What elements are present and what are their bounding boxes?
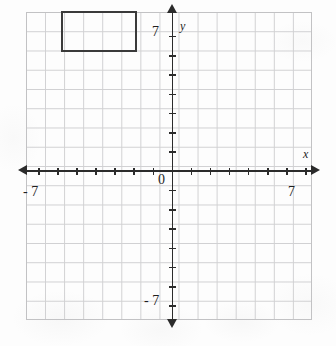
- y-axis-down-arrow-icon: [167, 319, 177, 328]
- y-axis-tick: [169, 267, 176, 269]
- y-axis-tick: [169, 248, 176, 250]
- y-axis-tick: [169, 94, 176, 96]
- x-axis-left-arrow-icon: [18, 165, 27, 175]
- y-axis-tick: [169, 36, 176, 38]
- y-axis-tick: [169, 151, 176, 153]
- x-axis-tick: [95, 168, 97, 175]
- y-axis-line: [172, 12, 174, 320]
- x-axis-tick: [248, 168, 250, 175]
- x-axis-tick-label-negative-seven: - 7: [23, 184, 38, 200]
- rectangle-shape: [61, 11, 137, 52]
- x-axis-line: [26, 170, 312, 172]
- origin-label: 0: [158, 172, 165, 188]
- y-axis-tick: [169, 228, 176, 230]
- y-axis-up-arrow-icon: [167, 4, 177, 13]
- y-axis-tick-label-negative-seven: - 7: [144, 293, 159, 309]
- y-axis-label: y: [180, 19, 185, 34]
- x-axis-tick: [267, 168, 269, 175]
- y-axis-tick: [169, 190, 176, 192]
- y-axis-tick: [169, 132, 176, 134]
- x-axis-tick: [133, 168, 135, 175]
- x-axis-tick: [57, 168, 59, 175]
- y-axis-tick: [169, 305, 176, 307]
- y-axis-tick-label-positive-seven: 7: [152, 24, 159, 40]
- y-axis-tick: [169, 74, 176, 76]
- coordinate-plane: y x 0 7 - 7 - 7 7: [26, 12, 312, 320]
- x-axis-tick: [153, 168, 155, 175]
- y-axis-tick: [169, 55, 176, 57]
- x-axis-tick: [229, 168, 231, 175]
- x-axis-tick: [210, 168, 212, 175]
- y-axis-tick: [169, 113, 176, 115]
- x-axis-tick: [38, 168, 40, 175]
- x-axis-right-arrow-icon: [311, 165, 320, 175]
- y-axis-tick: [169, 209, 176, 211]
- x-axis-tick: [191, 168, 193, 175]
- grid-border: [26, 12, 312, 320]
- x-axis-tick: [286, 168, 288, 175]
- worksheet-page: y x 0 7 - 7 - 7 7: [0, 0, 336, 346]
- x-axis-tick: [305, 168, 307, 175]
- x-axis-tick: [114, 168, 116, 175]
- x-axis-tick-label-positive-seven: 7: [288, 184, 295, 200]
- y-axis-tick: [169, 286, 176, 288]
- x-axis-label: x: [303, 147, 308, 162]
- x-axis-tick: [76, 168, 78, 175]
